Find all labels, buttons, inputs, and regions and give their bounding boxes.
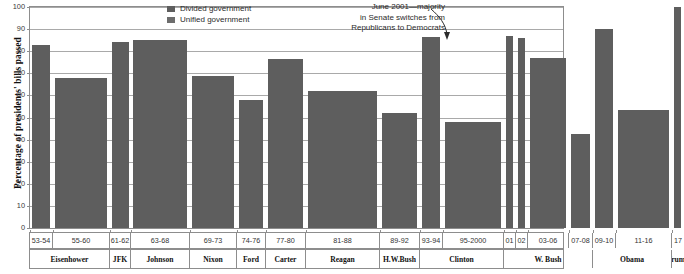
- senate-switch-annotation: June 2001—majority in Senate switches fr…: [277, 2, 445, 34]
- legend-label-unified: Unified government: [180, 14, 249, 25]
- legend-item-unified: Unified government: [167, 14, 251, 25]
- period-label-09-10: 09-10: [593, 233, 616, 248]
- president-label-Ford: Ford: [237, 250, 266, 268]
- y-axis-tick-label: 80: [1, 46, 25, 55]
- x-axis-tick-mark: [306, 230, 307, 233]
- y-axis-tick-mark: [27, 184, 30, 185]
- bar-53-54: [32, 45, 50, 228]
- bar-61-62: [112, 42, 129, 228]
- president-label-Clinton: Clinton: [420, 250, 504, 268]
- y-axis-tick-mark: [27, 118, 30, 119]
- x-axis-tick-mark: [672, 230, 673, 233]
- annotation-line-2: in Senate switches from: [277, 13, 445, 24]
- bar-07-08: [571, 134, 590, 228]
- gridline: [30, 51, 563, 52]
- period-label-89-92: 89-92: [380, 233, 420, 248]
- bar-69-73: [192, 76, 234, 228]
- y-axis-tick-mark: [27, 206, 30, 207]
- period-label-61-62: 61-62: [110, 233, 131, 248]
- x-axis-tick-mark: [237, 230, 238, 233]
- y-axis-tick-mark: [27, 228, 30, 229]
- y-axis-tick-mark: [27, 7, 30, 8]
- period-label-17: 17: [672, 233, 684, 248]
- bar-09-10: [595, 29, 613, 228]
- president-label-Carter: Carter: [266, 250, 306, 268]
- president-label-Trump: Trump: [672, 250, 684, 268]
- y-axis-tick-label: 60: [1, 90, 25, 99]
- period-label-69-73: 69-73: [190, 233, 237, 248]
- x-axis-tick-mark: [593, 230, 594, 233]
- y-axis-tick-mark: [27, 140, 30, 141]
- x-axis-tick-mark: [53, 230, 54, 233]
- president-label-Nixon: Nixon: [190, 250, 237, 268]
- y-axis-tick-mark: [27, 29, 30, 30]
- y-axis-tick-label: 70: [1, 68, 25, 77]
- y-axis-tick-label: 10: [1, 201, 25, 210]
- x-axis-tick-mark: [380, 230, 381, 233]
- president-label-Eisenhower: Eisenhower: [30, 250, 110, 268]
- x-axis-tick-mark: [504, 230, 505, 233]
- x-axis-tick-mark: [30, 230, 31, 233]
- legend-swatch-divided: [167, 6, 175, 12]
- president-label-Obama: Obama: [593, 250, 672, 268]
- y-axis-tick-mark: [27, 162, 30, 163]
- bar-77-80: [268, 59, 303, 228]
- president-label-band: EisenhowerJFKJohnsonNixonFordCarterReaga…: [29, 249, 564, 269]
- period-label-11-16: 11-16: [616, 233, 672, 248]
- president-label-JFK: JFK: [110, 250, 131, 268]
- y-axis-tick-label: 20: [1, 179, 25, 188]
- bar-55-60: [55, 78, 107, 228]
- period-label-81-88: 81-88: [306, 233, 380, 248]
- x-axis-tick-mark: [190, 230, 191, 233]
- x-axis-tick-mark: [528, 230, 529, 233]
- period-label-93-94: 93-94: [420, 233, 443, 248]
- x-axis-tick-mark: [616, 230, 617, 233]
- bar-02: [518, 38, 525, 228]
- x-axis-tick-mark: [131, 230, 132, 233]
- x-axis-tick-mark: [516, 230, 517, 233]
- chart-legend: Divided government Unified government: [167, 3, 251, 25]
- x-axis-tick-mark: [266, 230, 267, 233]
- y-axis-tick-mark: [27, 73, 30, 74]
- x-axis-tick-mark: [443, 230, 444, 233]
- bar-11-16: [618, 110, 669, 228]
- bar-63-68: [133, 40, 187, 228]
- y-axis-tick-label: 50: [1, 113, 25, 122]
- president-label-W-Bush: W. Bush: [504, 250, 593, 268]
- plot-area: 1009080706050403020100: [29, 6, 564, 229]
- president-label-H-W-Bush: H.W.Bush: [380, 250, 420, 268]
- legend-label-divided: Divided government: [180, 3, 251, 14]
- y-axis-tick-label: 40: [1, 135, 25, 144]
- y-axis-tick-label: 0: [1, 223, 25, 232]
- x-axis-tick-mark: [110, 230, 111, 233]
- president-label-Johnson: Johnson: [131, 250, 190, 268]
- x-axis-tick-mark: [420, 230, 421, 233]
- period-label-55-60: 55-60: [53, 233, 110, 248]
- y-axis-tick-mark: [27, 51, 30, 52]
- period-label-01: 01: [504, 233, 516, 248]
- period-label-03-06: 03-06: [528, 233, 569, 248]
- bar-17: [674, 7, 681, 228]
- y-axis-tick-label: 30: [1, 157, 25, 166]
- period-label-53-54: 53-54: [30, 233, 53, 248]
- period-label-band: 53-5455-6061-6263-6869-7374-7677-8081-88…: [29, 232, 564, 249]
- president-label-Reagan: Reagan: [306, 250, 380, 268]
- period-label-95-2000: 95-2000: [443, 233, 504, 248]
- bar-89-92: [382, 113, 417, 228]
- x-axis-tick-mark: [569, 230, 570, 233]
- period-label-77-80: 77-80: [266, 233, 306, 248]
- annotation-line-3: Republicans to Democrats: [277, 23, 445, 34]
- bar-81-88: [308, 91, 377, 228]
- y-axis-tick-mark: [27, 95, 30, 96]
- period-label-02: 02: [516, 233, 528, 248]
- period-label-74-76: 74-76: [237, 233, 266, 248]
- bar-03-06: [530, 58, 566, 228]
- legend-item-divided: Divided government: [167, 3, 251, 14]
- y-axis-tick-label: 90: [1, 24, 25, 33]
- period-label-07-08: 07-08: [569, 233, 593, 248]
- y-axis-tick-label: 100: [1, 2, 25, 11]
- bar-95-2000: [445, 122, 501, 228]
- period-label-63-68: 63-68: [131, 233, 190, 248]
- bar-93-94: [422, 37, 440, 228]
